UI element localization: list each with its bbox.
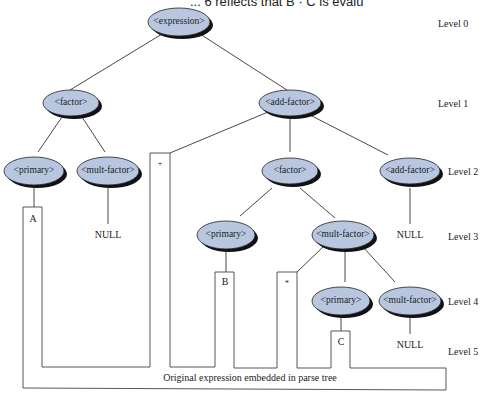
level-label: Level 0 — [438, 18, 468, 29]
level-label: Level 3 — [448, 231, 478, 242]
tree-node-primary: <primary> — [312, 287, 373, 318]
tree-node-factor: <factor> — [43, 90, 102, 119]
level-label: Level 1 — [438, 98, 468, 109]
svg-text:<mult-factor>: <mult-factor> — [81, 165, 134, 175]
tree-node-mult-factor: <mult-factor> — [77, 157, 142, 188]
embedded-expression-outline — [23, 153, 446, 390]
svg-text:<mult-factor>: <mult-factor> — [316, 229, 369, 239]
level-label: Level 2 — [448, 166, 478, 177]
svg-text:<primary>: <primary> — [206, 229, 247, 239]
parse-tree-diagram: A + B * C NULL NULL NULL <expression> <f… — [0, 0, 484, 401]
null-leaf: NULL — [95, 229, 122, 240]
svg-text:<primary>: <primary> — [321, 295, 362, 305]
token-b: B — [222, 276, 229, 287]
level-label: Level 4 — [448, 296, 478, 307]
token-a: A — [29, 213, 37, 224]
svg-text:<factor>: <factor> — [274, 165, 307, 175]
tree-node-add-factor: <add-factor> — [380, 158, 443, 187]
null-leaf: NULL — [397, 229, 424, 240]
svg-text:<mult-factor>: <mult-factor> — [383, 295, 436, 305]
null-leaf: NULL — [397, 339, 424, 350]
tree-node-expression: <expression> — [148, 8, 213, 39]
tree-node-mult-factor: <mult-factor> — [379, 287, 444, 318]
token-c: C — [338, 336, 345, 347]
token-times: * — [285, 279, 289, 288]
token-plus: + — [158, 159, 163, 168]
tree-node-primary: <primary> — [197, 221, 258, 252]
tree-node-factor: <factor> — [262, 158, 321, 187]
tree-node-primary: <primary> — [4, 157, 67, 188]
diagram-caption: Original expression embedded in parse tr… — [163, 372, 337, 383]
svg-text:<add-factor>: <add-factor> — [265, 97, 315, 107]
tree-node-add-factor: <add-factor> — [259, 90, 324, 119]
svg-text:<add-factor>: <add-factor> — [385, 165, 435, 175]
svg-text:<factor>: <factor> — [55, 97, 88, 107]
svg-text:<expression>: <expression> — [153, 16, 204, 26]
tree-node-mult-factor: <mult-factor> — [312, 221, 377, 252]
level-label: Level 5 — [448, 346, 478, 357]
svg-text:<primary>: <primary> — [14, 165, 55, 175]
